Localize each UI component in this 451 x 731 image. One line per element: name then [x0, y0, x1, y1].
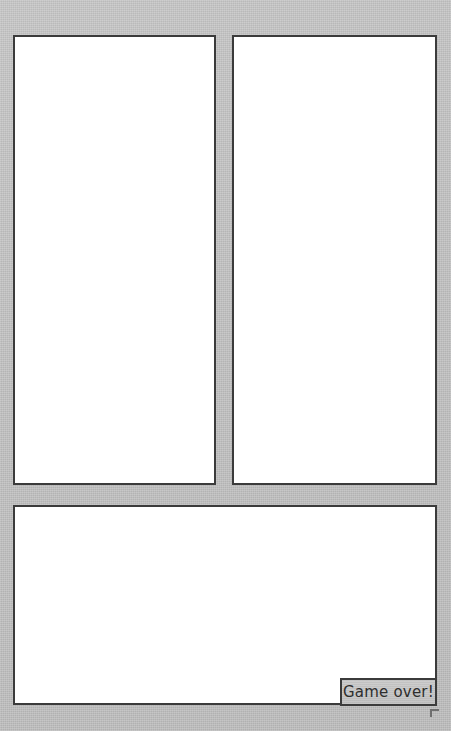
game-over-status-label: Game over! — [343, 685, 434, 700]
right-panel[interactable] — [232, 35, 437, 485]
game-over-status-box[interactable]: Game over! — [340, 678, 437, 706]
resize-corner-marker[interactable] — [430, 709, 439, 717]
bottom-panel[interactable] — [13, 505, 437, 705]
app-window: Game over! — [0, 0, 451, 731]
left-panel[interactable] — [13, 35, 216, 485]
